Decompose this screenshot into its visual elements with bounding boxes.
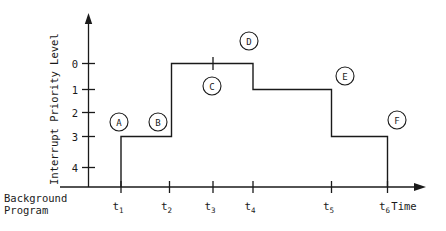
- y-tick-label-4: 4: [72, 162, 78, 174]
- x-tick-label-t4: t4: [244, 200, 256, 215]
- event-marker-b: B: [149, 113, 167, 131]
- marker-label-d: D: [246, 37, 251, 47]
- marker-label-a: A: [116, 118, 122, 128]
- interrupt-priority-figure: 0 1 2 3 4 Interrupt Priority Level t1: [0, 0, 446, 231]
- marker-label-c: C: [209, 82, 214, 92]
- y-axis-arrow-icon: [85, 13, 92, 24]
- chart-canvas: 0 1 2 3 4 Interrupt Priority Level t1: [0, 0, 446, 231]
- background-note-line-2: Program: [4, 204, 48, 216]
- y-axis-tick-labels: 0 1 2 3 4: [72, 58, 78, 174]
- y-tick-label-0: 0: [72, 58, 78, 70]
- x-axis-tick-labels: t1 t2 t3 t4 t5 t6: [112, 200, 390, 215]
- event-marker-a: A: [110, 113, 128, 131]
- x-tick-label-t6: t6: [379, 200, 391, 215]
- marker-label-f: F: [394, 116, 399, 126]
- marker-label-e: E: [342, 72, 347, 82]
- background-program-note: Background Program: [4, 192, 67, 216]
- x-axis: [60, 183, 426, 191]
- x-tick-label-t2: t2: [161, 200, 172, 215]
- event-marker-e: E: [336, 67, 354, 85]
- background-note-line-1: Background: [4, 192, 67, 204]
- y-tick-label-3: 3: [72, 131, 78, 143]
- y-tick-label-1: 1: [72, 84, 78, 96]
- y-tick-label-2: 2: [72, 107, 78, 119]
- event-marker-d: D: [240, 32, 258, 50]
- x-tick-label-t1: t1: [112, 200, 123, 215]
- y-axis-title: Interrupt Priority Level: [48, 33, 60, 185]
- event-marker-f: F: [388, 111, 406, 129]
- y-axis: [85, 13, 92, 187]
- x-tick-label-t3: t3: [204, 200, 215, 215]
- x-axis-title: Time: [391, 200, 416, 212]
- event-marker-c: C: [203, 77, 221, 95]
- x-axis-arrow-icon: [414, 183, 426, 191]
- x-tick-label-t5: t5: [323, 200, 334, 215]
- marker-label-b: B: [155, 118, 160, 128]
